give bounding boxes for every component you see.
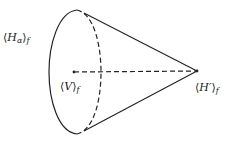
base-label: ⟨Hα⟩f bbox=[3, 32, 30, 45]
base-label-main: H bbox=[7, 31, 17, 44]
cone-axis bbox=[74, 71, 197, 72]
apex-label-main: H′ bbox=[199, 81, 211, 94]
cone-diagram bbox=[0, 0, 237, 141]
vertex-label-subscript: f bbox=[77, 85, 80, 94]
base-ellipse-back bbox=[77, 10, 101, 134]
base-label-subscript: f bbox=[27, 36, 30, 45]
cone-edge-bottom bbox=[84, 71, 197, 131]
apex-point bbox=[196, 70, 199, 73]
vertex-point bbox=[73, 71, 76, 74]
apex-label-subscript: f bbox=[216, 86, 219, 95]
vertex-label: ⟨V⟩f bbox=[60, 81, 80, 94]
apex-label: ⟨H′⟩f bbox=[195, 82, 219, 95]
